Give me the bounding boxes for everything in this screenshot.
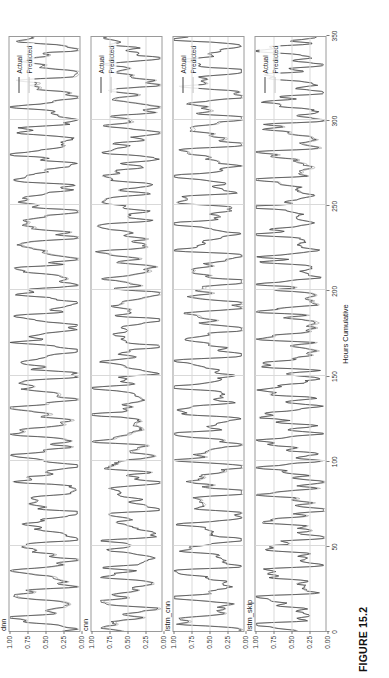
legend: Actual Predicted	[13, 43, 34, 96]
y-tick-label: 0.50	[288, 636, 295, 649]
plot-area: dnn Actual Predicted 0.000.250.500.751.0…	[0, 0, 352, 678]
figure-caption: FIGURE 15.2	[356, 607, 368, 672]
legend-label: Actual	[261, 55, 268, 73]
y-tick-label: 0.00	[160, 636, 167, 649]
gridline-vertical	[91, 545, 161, 546]
y-tick-label: 0.25	[306, 636, 313, 649]
gridline-vertical	[173, 204, 243, 205]
gridline-horizontal	[145, 37, 146, 631]
x-tick-mark	[326, 376, 329, 377]
gridline-vertical	[173, 460, 243, 461]
series-line-predicted	[92, 37, 161, 631]
legend: Actual Predicted	[95, 43, 116, 96]
panel-title: lstm_cnn	[162, 601, 171, 631]
panel-curves	[173, 37, 243, 631]
gridline-vertical	[255, 375, 325, 376]
gridline-horizontal	[191, 37, 192, 631]
y-tick-mark	[173, 631, 174, 634]
y-tick-mark	[291, 631, 292, 634]
y-tick-label: 0.75	[270, 636, 277, 649]
gridline-vertical	[255, 204, 325, 205]
panel-title: dnn	[0, 618, 7, 631]
x-tick-label: 200	[330, 286, 337, 297]
y-tick-mark	[209, 631, 210, 634]
legend-item-predicted: Predicted	[25, 46, 32, 93]
legend-item-predicted: Predicted	[271, 46, 278, 93]
gridline-horizontal	[45, 37, 46, 631]
panel-dnn: dnn Actual Predicted 0.000.250.500.751.0…	[8, 36, 80, 632]
y-tick-mark	[191, 631, 192, 634]
y-tick-mark	[9, 631, 10, 634]
gridline-vertical	[255, 545, 325, 546]
y-tick-label: 0.00	[324, 636, 331, 649]
y-tick-label: 1.00	[6, 636, 13, 649]
x-tick-label: 300	[330, 116, 337, 127]
y-tick-mark	[45, 631, 46, 634]
panel-lstm-skip: lstm_skip Actual Predicted 0.000.250.500…	[254, 36, 326, 632]
gridline-vertical	[91, 204, 161, 205]
panel-cnn: cnn Actual Predicted 0.000.250.500.751.0…	[90, 36, 162, 632]
x-axis-label: Hours Cumulative	[340, 36, 349, 632]
y-tick-label: 0.75	[188, 636, 195, 649]
x-tick-mark	[326, 35, 329, 36]
legend-item-actual: Actual	[97, 46, 104, 93]
gridline-vertical	[173, 289, 243, 290]
gridline-vertical	[91, 375, 161, 376]
y-tick-label: 1.00	[252, 636, 259, 649]
x-tick-label: 50	[330, 543, 337, 550]
panel-curves	[91, 37, 161, 631]
legend-item-actual: Actual	[261, 46, 268, 93]
x-tick-label: 150	[330, 371, 337, 382]
gridline-vertical	[91, 289, 161, 290]
x-tick-mark	[326, 205, 329, 206]
legend-line-icon	[18, 77, 19, 93]
y-tick-label: 0.75	[106, 636, 113, 649]
y-tick-mark	[309, 631, 310, 634]
gridline-vertical	[9, 204, 79, 205]
panel-title: lstm_skip	[244, 600, 253, 631]
y-tick-mark	[27, 631, 28, 634]
gridline-vertical	[9, 375, 79, 376]
y-tick-mark	[163, 631, 164, 634]
y-tick-mark	[109, 631, 110, 634]
figure-page: dnn Actual Predicted 0.000.250.500.751.0…	[0, 0, 389, 678]
y-tick-mark	[273, 631, 274, 634]
y-tick-label: 0.00	[242, 636, 249, 649]
y-tick-mark	[127, 631, 128, 634]
legend-label: Predicted	[189, 46, 196, 73]
legend-line-icon	[264, 77, 265, 93]
y-tick-label: 0.25	[142, 636, 149, 649]
gridline-horizontal	[309, 37, 310, 631]
x-tick-mark	[326, 290, 329, 291]
y-tick-mark	[63, 631, 64, 634]
legend-label: Actual	[179, 55, 186, 73]
legend-label: Actual	[97, 55, 104, 73]
gridline-vertical	[9, 545, 79, 546]
gridline-horizontal	[127, 37, 128, 631]
x-tick-mark	[326, 631, 329, 632]
y-tick-label: 0.75	[24, 636, 31, 649]
gridline-horizontal	[273, 37, 274, 631]
legend: Actual Predicted	[177, 43, 198, 96]
legend-item-predicted: Predicted	[107, 46, 114, 93]
legend-label: Actual	[15, 55, 22, 73]
legend-label: Predicted	[271, 46, 278, 73]
panel-curves	[9, 37, 79, 631]
gridline-vertical	[173, 545, 243, 546]
y-tick-mark	[145, 631, 146, 634]
panel-lstm-cnn: lstm_cnn Actual Predicted 0.000.250.500.…	[172, 36, 244, 632]
x-tick-label: 350	[330, 31, 337, 42]
y-tick-label: 1.00	[88, 636, 95, 649]
y-tick-label: 0.25	[60, 636, 67, 649]
gridline-vertical	[255, 289, 325, 290]
gridline-vertical	[173, 375, 243, 376]
y-tick-mark	[81, 631, 82, 634]
rotated-figure-canvas: dnn Actual Predicted 0.000.250.500.751.0…	[0, 0, 389, 678]
x-tick-mark	[326, 546, 329, 547]
series-line-actual	[174, 37, 241, 631]
y-tick-mark	[91, 631, 92, 634]
gridline-horizontal	[27, 37, 28, 631]
y-tick-mark	[255, 631, 256, 634]
legend-line-icon	[182, 77, 183, 93]
x-tick-mark	[326, 461, 329, 462]
